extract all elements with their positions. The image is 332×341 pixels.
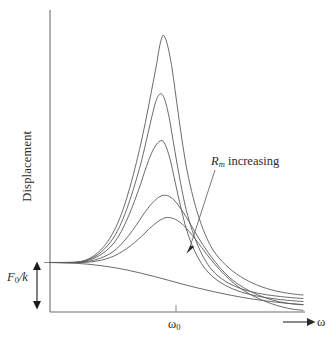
- dimension-label-f0-over-k: F0/k: [7, 271, 28, 285]
- trend-label-variable: R: [211, 154, 219, 168]
- resonance-curve-figure: Displacement F0/k Rm increasing ω0 ω: [0, 0, 332, 341]
- dimension-arrow-head-top: [33, 262, 41, 271]
- x-axis-arrow-head: [307, 318, 316, 326]
- trend-annotation-label: Rm increasing: [211, 155, 279, 169]
- dimension-label-tail: /k: [19, 270, 28, 284]
- x-axis-label: ω: [317, 316, 325, 329]
- x-tick-label-omega0: ω0: [168, 318, 180, 332]
- y-axis-label: Displacement: [21, 111, 34, 221]
- dimension-arrow-head-bottom: [33, 301, 41, 310]
- trend-arrow-head: [186, 246, 194, 254]
- resonance-curve-6-overdamped: [50, 263, 303, 305]
- resonance-curve-2: [50, 94, 303, 299]
- trend-arrow-line: [190, 170, 216, 249]
- trend-label-text: increasing: [225, 154, 280, 168]
- dimension-label-base: F: [7, 270, 15, 284]
- x-tick-label-subscript: 0: [176, 322, 180, 332]
- plot-area: [0, 0, 332, 341]
- x-tick-label-base: ω: [168, 317, 176, 331]
